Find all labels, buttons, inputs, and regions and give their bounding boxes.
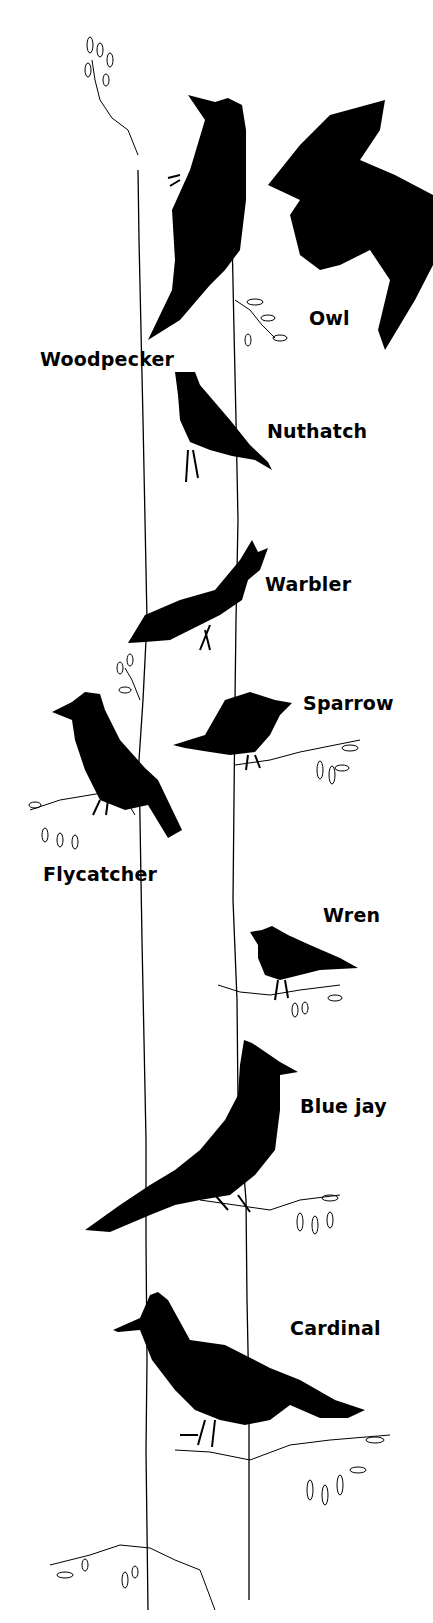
label-cardinal: Cardinal [290, 1317, 381, 1339]
nuthatch-silhouette [175, 372, 272, 470]
owl-silhouette [268, 100, 433, 350]
wren-silhouette [250, 926, 358, 980]
label-warbler: Warbler [265, 573, 351, 595]
blue-jay-silhouette [85, 1040, 298, 1232]
label-wren: Wren [323, 904, 380, 926]
flycatcher-silhouette [52, 692, 182, 838]
bird-illustration [0, 0, 433, 1623]
label-woodpecker: Woodpecker [40, 348, 174, 370]
sparrow-silhouette [173, 692, 292, 755]
label-flycatcher: Flycatcher [43, 863, 157, 885]
label-sparrow: Sparrow [303, 692, 394, 714]
label-nuthatch: Nuthatch [267, 420, 367, 442]
warbler-silhouette [128, 540, 268, 643]
label-blue-jay: Blue jay [300, 1095, 387, 1117]
cardinal-silhouette [113, 1292, 365, 1425]
label-owl: Owl [309, 307, 350, 329]
woodpecker-silhouette [148, 95, 246, 340]
